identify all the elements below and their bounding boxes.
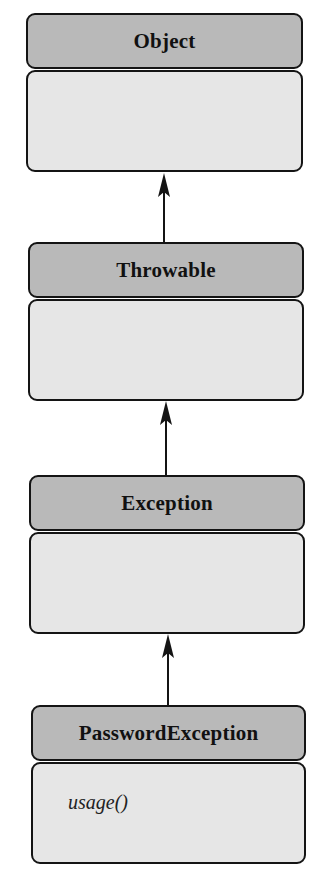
class-body	[28, 299, 304, 401]
inheritance-arrow-icon	[154, 171, 174, 244]
class-exception: Exception	[29, 475, 305, 633]
class-body	[26, 70, 303, 172]
class-password-exception: PasswordException usage()	[31, 705, 306, 863]
class-throwable: Throwable	[28, 242, 304, 400]
class-name: Object	[134, 29, 196, 54]
class-body: usage()	[31, 762, 306, 864]
inheritance-arrow-icon	[158, 632, 178, 706]
class-name: PasswordException	[79, 721, 259, 746]
class-name: Exception	[121, 491, 213, 516]
class-name: Throwable	[116, 258, 215, 283]
class-body	[29, 532, 305, 634]
class-header: Throwable	[28, 242, 304, 298]
method-usage: usage()	[68, 791, 128, 814]
class-header: Object	[26, 13, 303, 69]
inheritance-arrow-icon	[156, 399, 176, 476]
class-object: Object	[26, 13, 303, 172]
class-header: PasswordException	[31, 705, 306, 761]
class-header: Exception	[29, 475, 305, 531]
